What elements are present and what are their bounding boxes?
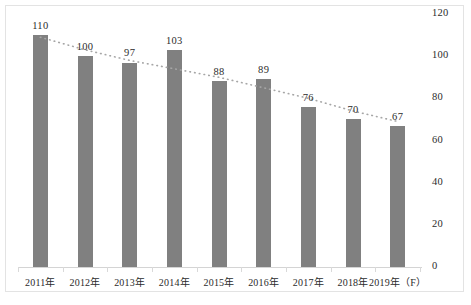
bar-value-label: 76	[293, 92, 323, 103]
x-axis-tick	[420, 267, 421, 272]
bar-2016年	[256, 79, 271, 267]
x-axis-line	[18, 267, 422, 268]
bar-value-label: 103	[159, 35, 189, 46]
x-axis-tick	[241, 267, 242, 272]
x-axis-tick	[331, 267, 332, 272]
y-axis-label: 120	[432, 7, 458, 18]
x-axis-tick	[63, 267, 64, 272]
y-axis-label: 0	[432, 260, 458, 271]
chart-root: 2011年2012年2013年2014年2015年2016年2017年2018年…	[0, 0, 471, 305]
bar-2019年（F）	[390, 126, 405, 267]
bar-value-label: 110	[25, 20, 55, 31]
bar-value-label: 97	[115, 47, 145, 58]
x-axis-tick	[152, 267, 153, 272]
bar-value-label: 100	[70, 41, 100, 52]
x-axis-tick	[107, 267, 108, 272]
y-axis-label: 100	[432, 49, 458, 60]
bar-2018年	[346, 119, 361, 267]
x-axis-tick	[286, 267, 287, 272]
bar-2017年	[301, 107, 316, 267]
bar-2011年	[33, 35, 48, 267]
y-axis-label: 80	[432, 91, 458, 102]
x-axis-tick	[18, 267, 19, 272]
bar-value-label: 70	[338, 104, 368, 115]
bar-2012年	[78, 56, 93, 267]
bar-value-label: 89	[249, 64, 279, 75]
y-axis-label: 40	[432, 176, 458, 187]
y-axis-label: 60	[432, 134, 458, 145]
x-axis-label: 2019年（F）	[358, 274, 438, 289]
bar-2015年	[212, 81, 227, 267]
x-axis-label-group: 2011年2012年2013年2014年2015年2016年2017年2018年…	[18, 274, 422, 290]
bar-value-label: 88	[204, 66, 234, 77]
bar-value-label: 67	[383, 111, 413, 122]
bar-2014年	[167, 50, 182, 267]
y-axis-label: 20	[432, 218, 458, 229]
x-axis-tick	[197, 267, 198, 272]
bar-2013年	[122, 63, 137, 268]
x-axis-tick	[375, 267, 376, 272]
